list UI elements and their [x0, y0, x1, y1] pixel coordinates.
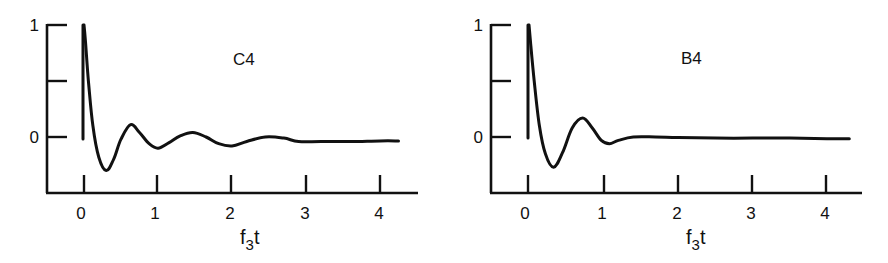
- x-axis-label-subscript: 3: [246, 236, 254, 253]
- series-line-c4: [84, 25, 399, 171]
- x-axis-label-tail: t: [700, 226, 706, 248]
- x-axis-label: f3t: [240, 226, 260, 253]
- x-axis-label: f3t: [686, 226, 706, 253]
- x-tick-label-1: 1: [150, 204, 159, 223]
- x-tick-label-2: 2: [225, 204, 234, 223]
- y-tick-label-1: 1: [474, 16, 483, 35]
- figure-svg: 1 0 0 1 2 3 4 f3t C4: [0, 0, 888, 263]
- panel-b4: 1 0 0 1 2 3 4 f3t B4: [474, 16, 862, 253]
- x-tick-label-3: 3: [746, 204, 755, 223]
- y-tick-label-0: 0: [30, 128, 39, 147]
- x-tick-label-1: 1: [597, 204, 606, 223]
- x-axis-label-subscript: 3: [692, 236, 700, 253]
- figure: 1 0 0 1 2 3 4 f3t C4: [0, 0, 888, 263]
- x-axis-label-tail: t: [254, 226, 260, 248]
- x-ticks: [84, 175, 380, 193]
- x-tick-label-0: 0: [520, 204, 529, 223]
- panel-c4: 1 0 0 1 2 3 4 f3t C4: [30, 16, 418, 253]
- panel-label-c4: C4: [233, 50, 255, 69]
- x-ticks: [528, 175, 826, 193]
- y-tick-label-1: 1: [30, 16, 39, 35]
- x-tick-label-4: 4: [820, 204, 829, 223]
- x-tick-label-2: 2: [672, 204, 681, 223]
- y-tick-label-0: 0: [474, 128, 483, 147]
- panel-label-b4: B4: [681, 49, 702, 68]
- x-tick-label-4: 4: [374, 204, 383, 223]
- series-line-b4: [529, 25, 849, 167]
- x-tick-label-0: 0: [76, 204, 85, 223]
- x-tick-label-3: 3: [300, 204, 309, 223]
